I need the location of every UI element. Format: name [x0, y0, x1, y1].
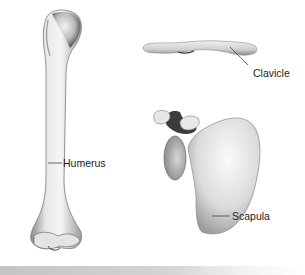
- anatomy-figure: Humerus Clavicle Scapula: [0, 0, 305, 275]
- humerus-bone: [31, 10, 82, 250]
- scapula-label: Scapula: [232, 210, 270, 222]
- clavicle-bone: [143, 41, 257, 55]
- clavicle-label: Clavicle: [253, 67, 290, 79]
- humerus-label: Humerus: [63, 157, 106, 169]
- footer-bar: [0, 266, 305, 275]
- bones-illustration: [0, 0, 305, 275]
